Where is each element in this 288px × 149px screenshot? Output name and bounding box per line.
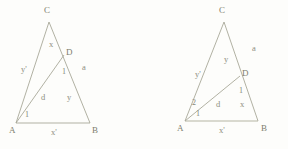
right-vertex-label-d: D — [242, 69, 249, 78]
left-vertex-label-d: D — [66, 48, 73, 57]
left-side-label-ac: y' — [21, 65, 27, 74]
left-side-cb — [49, 22, 90, 123]
left-vertex-label-b: B — [92, 126, 98, 135]
left-side-label-cb-outer: a — [82, 63, 86, 72]
right-base-label-ab: x' — [219, 126, 225, 135]
geometry-figure-canvas: C D A B x y' a 1 d y 1 x' C D A B y y' a… — [0, 0, 288, 149]
right-side-label-cb-outer: a — [252, 44, 256, 53]
right-segment-label-cd: y — [224, 55, 228, 64]
left-triangle-group — [16, 22, 90, 123]
right-vertex-label-c: C — [219, 6, 225, 15]
right-angle-label-a-upper: 2 — [192, 99, 196, 107]
right-vertex-label-a: A — [177, 124, 184, 133]
right-vertex-label-b: B — [261, 124, 267, 133]
right-cevian-label-ad: d — [216, 100, 220, 109]
left-cevian-label-ad: d — [41, 93, 45, 102]
right-angle-label-d: 1 — [239, 87, 243, 95]
left-vertex-label-c: C — [44, 6, 50, 15]
left-vertex-label-a: A — [9, 126, 16, 135]
right-side-label-ac: y' — [195, 70, 201, 79]
left-angle-label-d: 1 — [62, 68, 66, 76]
left-angle-label-a: 1 — [25, 111, 29, 119]
left-segment-label-cd: x — [49, 40, 53, 49]
right-angle-label-a-lower: 1 — [196, 110, 200, 118]
left-segment-label-db: y — [67, 93, 71, 102]
right-segment-label-db: x — [240, 100, 244, 109]
left-base-label-ab: x' — [51, 128, 57, 137]
